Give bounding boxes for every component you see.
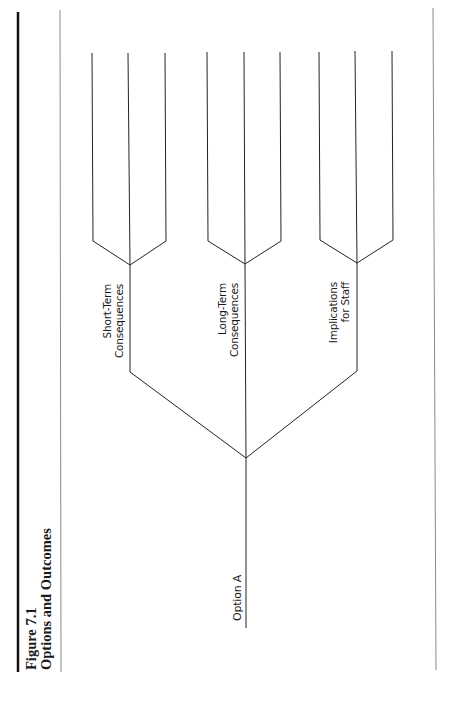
branch-label-line: Implications (327, 282, 339, 366)
root-node-label: Option A (232, 541, 244, 621)
option-a-label: Option A (231, 575, 244, 621)
branch-label-short-term: Short-Term Consequences (101, 284, 125, 368)
branch-label-line: Consequences (228, 283, 240, 367)
leaf-group-staff (319, 51, 393, 263)
figure-title: Options and Outcomes (39, 430, 54, 670)
thin-rule-left (60, 10, 61, 672)
thin-rule-right (433, 8, 436, 670)
branch-connector-long-term (245, 264, 246, 458)
branch-label-line: Long-Term (216, 283, 228, 367)
figure-caption: Figure 7.1 Options and Outcomes (24, 430, 54, 670)
branch-label-line: for Staff (339, 282, 351, 366)
branch-label-long-term: Long-Term Consequences (216, 283, 240, 367)
branch-label-staff: Implications for Staff (327, 282, 351, 366)
figure-number: Figure 7.1 (24, 430, 39, 670)
leaf-group-long-term (207, 52, 281, 264)
leaf-group-short-term (92, 53, 166, 265)
figure-canvas: Figure 7.1 Options and Outcomes Option A… (0, 0, 452, 701)
branch-label-line: Short-Term (101, 284, 113, 368)
branch-label-line: Consequences (113, 284, 125, 368)
